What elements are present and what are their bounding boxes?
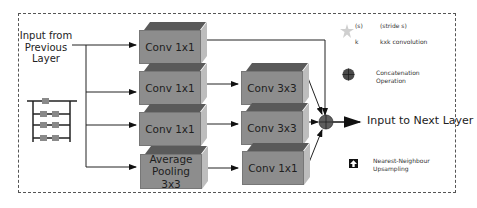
conv1x1-branch4-block: Conv 1x1 [242, 143, 310, 185]
block-label: 3x3 [161, 178, 181, 191]
block-label: Average [149, 153, 192, 166]
conv1x1-branch3-block: Conv 1x1 [139, 104, 207, 146]
conv3x3-branch2-block: Conv 3x3 [241, 63, 309, 105]
input-label-line: Layer [16, 53, 76, 65]
block-label: Conv 1x1 [145, 82, 195, 95]
block-label: Conv 1x1 [145, 123, 195, 136]
conv1x1-branch1-block: Conv 1x1 [139, 22, 207, 64]
concat-node-icon [318, 114, 334, 130]
legend-concat-line: Operation [376, 77, 420, 85]
legend-concat-line: Concatenation [376, 69, 420, 77]
layer-stack-icon [26, 97, 81, 147]
block-label: Pooling [152, 165, 190, 178]
output-label: Input to Next Layer [367, 115, 473, 128]
block-label: Conv 1x1 [145, 41, 195, 54]
concat-legend-icon [342, 68, 355, 81]
conv3x3-branch3-block: Conv 3x3 [241, 103, 309, 145]
block-label: Conv 1x1 [248, 162, 298, 175]
legend-stride-s: (s) [355, 22, 363, 30]
legend-upsampling-line: Upsampling [373, 165, 430, 173]
conv1x1-branch2-block: Conv 1x1 [139, 63, 207, 105]
input-label-line: Input from [16, 30, 76, 42]
legend-kernel-k: k [355, 38, 358, 46]
legend-conv-label: kxk convolution [380, 38, 427, 46]
legend-stride-label: (stride s) [380, 22, 407, 30]
legend-upsampling-line: Nearest-Neighbour [373, 157, 430, 165]
block-label: Conv 3x3 [247, 82, 297, 95]
input-label: Input from Previous Layer [16, 30, 76, 65]
average-pooling-block: Average Pooling 3x3 [140, 146, 208, 189]
legend-concat-label: Concatenation Operation [376, 69, 420, 84]
input-label-line: Previous [16, 42, 76, 54]
conv-star-icon [340, 24, 354, 38]
legend-upsampling-label: Nearest-Neighbour Upsampling [373, 157, 430, 172]
upsampling-arrow-icon [349, 159, 358, 168]
block-label: Conv 3x3 [247, 122, 297, 135]
